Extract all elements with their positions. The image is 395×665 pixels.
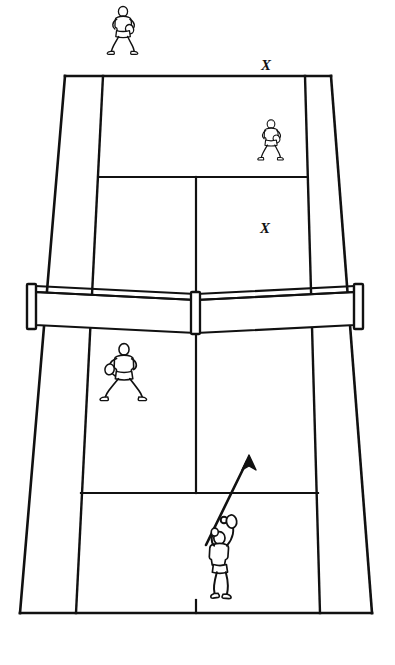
tennis-court-diagram: X X <box>0 0 395 665</box>
net-post-right <box>354 284 363 329</box>
net-post-left <box>27 284 36 329</box>
net-center-strap <box>191 292 200 334</box>
target-x-deep: X <box>261 58 271 73</box>
player-far-baseline <box>107 6 138 54</box>
court-drawing <box>0 0 395 665</box>
target-x-service-box: X <box>260 221 270 236</box>
